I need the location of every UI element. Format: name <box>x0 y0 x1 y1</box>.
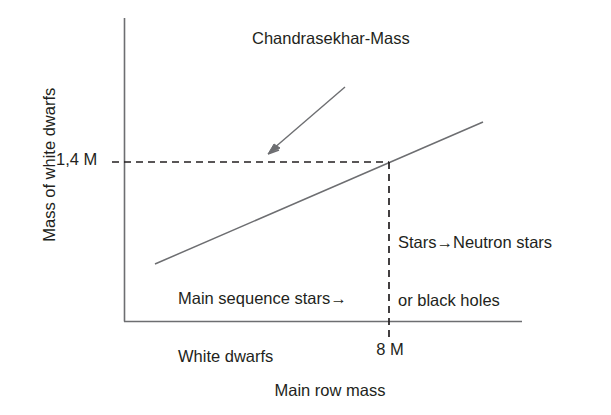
y-tick-label-1-4m: 1,4 M <box>56 150 97 169</box>
annotation-left-line-2: White dwarfs <box>178 347 347 366</box>
chandrasekhar-callout-arrow <box>268 87 345 154</box>
annotation-main-sequence-to-white-dwarfs: Main sequence stars→ White dwarfs <box>178 250 347 406</box>
annotation-right-line-2: or black holes <box>398 291 552 310</box>
chandrasekhar-mass-diagram: Chandrasekhar-Mass Mass of white dwarfs … <box>0 0 611 415</box>
chart-title: Chandrasekhar-Mass <box>252 29 410 48</box>
annotation-left-line-1: Main sequence stars→ <box>178 289 347 308</box>
annotation-stars-to-neutron-stars: Stars→Neutron stars or black holes <box>398 194 552 350</box>
annotation-right-line-1: Stars→Neutron stars <box>398 233 552 252</box>
